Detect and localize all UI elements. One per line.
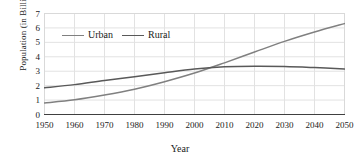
y-axis-tick-label: 5 [24,38,40,47]
y-axis-tick-label: 1 [24,96,40,105]
y-axis-tick-label: 2 [24,81,40,90]
y-axis-tick-label: 4 [24,52,40,61]
legend-item-rural[interactable]: Rural [122,30,170,40]
legend-label: Urban [88,30,113,40]
legend-label: Rural [148,30,170,40]
y-axis-tick-label: 0 [24,110,40,119]
y-axis-tick-label: 3 [24,67,40,76]
chart-legend: UrbanRural [62,30,170,40]
y-axis-tick-labels: 01234567 [22,13,40,115]
legend-line-swatch [122,35,144,36]
x-axis-tick-labels: 1950196019701980199020002010202020302040… [44,119,345,133]
y-axis-tick-label: 7 [24,9,40,18]
x-axis-tick-label: 2050 [325,119,360,131]
legend-item-urban[interactable]: Urban [62,30,113,40]
x-axis-title: Year [0,143,360,154]
population-line-chart: Population (in Billions) 01234567 195019… [0,0,360,164]
legend-line-swatch [62,35,84,36]
y-axis-tick-label: 6 [24,23,40,32]
